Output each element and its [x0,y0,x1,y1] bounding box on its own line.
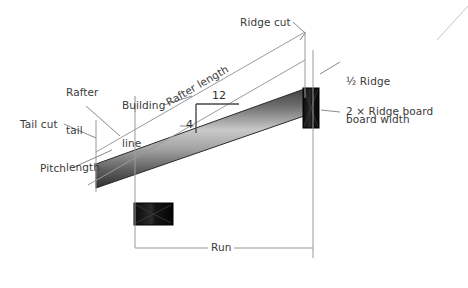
label-rafter-tail-length-line2: tail [66,124,100,137]
leader-half-ridge-board-width [320,62,340,74]
label-half-ridge-board-width: ½ Ridge board width [346,50,410,150]
label-building-line-line2: line [122,137,165,150]
label-pitch-run-12: 12 [212,90,226,103]
leader-ridge-cut [293,22,305,33]
label-rafter-tail-length-line3: length [66,161,100,174]
label-half-ridge-board-width-line1: ½ Ridge [346,75,410,88]
label-pitch-rise-4: 4 [186,119,193,132]
corner-artifact-line [437,6,468,40]
label-building-line-line1: Building [122,99,165,112]
leader-two-by-ridge-board [321,110,340,112]
label-rafter-tail-length-line1: Rafter [66,86,100,99]
label-run: Run [208,241,234,254]
diagram-canvas: Ridge cut Rafter tail length Building li… [0,0,468,288]
label-ridge-cut: Ridge cut [240,16,291,29]
label-two-by-ridge-board: 2 × Ridge board [346,105,433,118]
label-tail-cut: Tail cut [20,118,58,131]
label-rafter-tail-length: Rafter tail length [66,61,100,199]
label-pitch: Pitch [40,162,66,175]
label-building-line: Building line [122,74,165,174]
